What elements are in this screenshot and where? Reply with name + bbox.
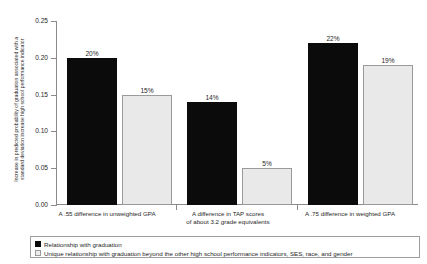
legend-label-unique-relationship: Unique relationship with graduation beyo… (44, 250, 353, 257)
y-tick-000: 0.00 (51, 205, 57, 206)
y-tick-025: 0.25 (51, 21, 57, 22)
bar-group3-series1: 22% (308, 43, 358, 205)
y-tick-label-020: 0.20 (35, 54, 48, 61)
chart-legend: Relationship with graduation Unique rela… (30, 236, 420, 258)
y-tick-005: 0.05 (51, 168, 57, 169)
bar-group3-series2: 19% (363, 65, 413, 205)
legend-label-relationship: Relationship with graduation (44, 241, 122, 248)
y-tick-label-025: 0.25 (35, 17, 48, 24)
bar-group2-series2: 5% (242, 168, 292, 205)
bar-value-group3-series2: 19% (381, 57, 394, 64)
x-category-label-2-line-2: of about 3.2 grade equivalents (163, 218, 293, 226)
x-category-label-3-line-1: A .75 difference in weighted GPA (285, 210, 415, 218)
bar-group2-series1: 14% (187, 102, 237, 205)
y-tick-label-015: 0.15 (35, 91, 48, 98)
legend-item-relationship: Relationship with graduation (35, 240, 415, 248)
legend-swatch-dark-icon (35, 241, 41, 247)
y-tick-label-000: 0.00 (35, 201, 48, 208)
plot-area: 0.25 0.20 0.15 0.10 0.05 0.00 20% 15% 14… (56, 21, 418, 205)
bar-group1-series1: 20% (67, 58, 117, 205)
x-category-label-2-line-1: A difference in TAP scores (163, 210, 293, 218)
y-tick-020: 0.20 (51, 58, 57, 59)
x-category-label-1-line-1: A .55 difference in unweighted GPA (43, 210, 171, 218)
y-axis-line (56, 21, 57, 205)
bar-value-group1-series2: 15% (140, 87, 153, 94)
y-tick-label-010: 0.10 (35, 127, 48, 134)
bar-value-group2-series1: 14% (205, 94, 218, 101)
x-category-label-1: A .55 difference in unweighted GPA (43, 210, 171, 218)
legend-swatch-light-icon (35, 250, 41, 256)
y-tick-015: 0.15 (51, 95, 57, 96)
y-tick-010: 0.10 (51, 131, 57, 132)
bar-value-group3-series1: 22% (326, 35, 339, 42)
bar-value-group1-series1: 20% (85, 50, 98, 57)
legend-item-unique-relationship: Unique relationship with graduation beyo… (35, 249, 415, 257)
x-category-label-3: A .75 difference in weighted GPA (285, 210, 415, 218)
y-axis-title-line-2: standard deviation increase high school … (19, 14, 25, 204)
y-axis-title: Increase in predicted probability of gra… (13, 14, 26, 204)
bar-value-group2-series2: 5% (262, 160, 272, 167)
y-tick-label-005: 0.05 (35, 164, 48, 171)
bar-group1-series2: 15% (122, 95, 172, 205)
bar-chart-figure: Increase in predicted probability of gra… (0, 0, 427, 264)
x-category-label-2: A difference in TAP scores of about 3.2 … (163, 210, 293, 225)
